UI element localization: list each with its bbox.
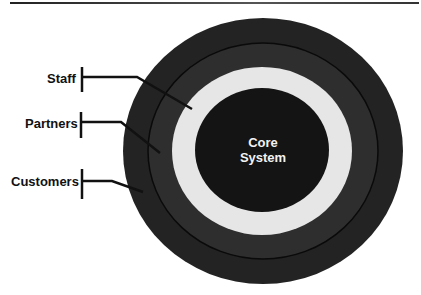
core-label-line1: Core [213, 135, 313, 150]
core-system-label: Core System [213, 135, 313, 165]
label-customers: Customers [11, 175, 79, 188]
label-partners: Partners [25, 117, 78, 130]
concentric-rings-diagram [0, 0, 421, 295]
core-label-line2: System [213, 150, 313, 165]
label-staff: Staff [47, 72, 76, 85]
